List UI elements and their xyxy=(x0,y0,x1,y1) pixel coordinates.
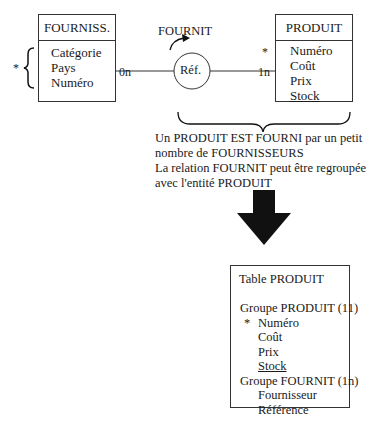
table-groups: Groupe PRODUIT (11) * Numéro Coût Prix S… xyxy=(240,301,359,417)
attribute: Numéro xyxy=(290,43,333,58)
entity-fourniss: FOURNISS. Catégorie Pays Numéro xyxy=(38,14,116,102)
table-field: Fournisseur xyxy=(240,388,359,403)
cardinality-left: 0n xyxy=(119,65,131,80)
relation-attribute: Réf. xyxy=(180,63,201,78)
down-arrow-icon xyxy=(237,190,291,245)
table-field: Coût xyxy=(240,330,359,345)
attribute: Numéro xyxy=(51,75,102,90)
attribute: Prix xyxy=(290,73,333,88)
entity-produit: PRODUIT Numéro Coût Prix Stock xyxy=(275,14,353,102)
bottom-brace-icon xyxy=(178,112,350,132)
table-title: Table PRODUIT xyxy=(239,272,324,287)
attribute: Catégorie xyxy=(51,45,102,60)
table-field: * Numéro xyxy=(240,316,359,331)
curved-arrow-icon xyxy=(170,38,184,50)
entity-fourniss-attributes: Catégorie Pays Numéro xyxy=(51,45,102,90)
description-line: nombre de FOURNISSEURS xyxy=(155,146,366,161)
entity-fourniss-title: FOURNISS. xyxy=(39,15,115,41)
group-fournit-label: Groupe FOURNIT (1n) xyxy=(240,374,359,389)
description-text: Un PRODUIT EST FOURNI par un petit nombr… xyxy=(155,131,366,191)
attribute: Coût xyxy=(290,58,333,73)
attribute: Pays xyxy=(51,60,102,75)
relation-name: FOURNIT xyxy=(158,24,212,39)
key-marker: * xyxy=(244,316,250,331)
description-line: Un PRODUIT EST FOURNI par un petit xyxy=(155,131,366,146)
left-brace-icon xyxy=(24,48,34,88)
description-line: La relation FOURNIT peut être regroupée xyxy=(155,161,366,176)
field-label-underlined: Stock xyxy=(258,359,286,373)
table-produit: Table PRODUIT Groupe PRODUIT (11) * Numé… xyxy=(230,265,350,408)
table-field: Prix xyxy=(240,345,359,360)
group-produit-label: Groupe PRODUIT (11) xyxy=(240,301,359,316)
attribute-underlined: Stock xyxy=(290,88,333,103)
entity-produit-title: PRODUIT xyxy=(276,15,352,41)
fourniss-key-marker: * xyxy=(13,61,19,76)
produit-key-marker: * xyxy=(262,45,268,60)
table-field: Référence xyxy=(240,403,359,418)
description-line: avec l'entité PRODUIT xyxy=(155,176,366,191)
table-field: Stock xyxy=(240,359,359,374)
field-label: Numéro xyxy=(258,316,299,330)
entity-produit-attributes: Numéro Coût Prix Stock xyxy=(290,43,333,103)
cardinality-right: 1n xyxy=(258,65,270,80)
